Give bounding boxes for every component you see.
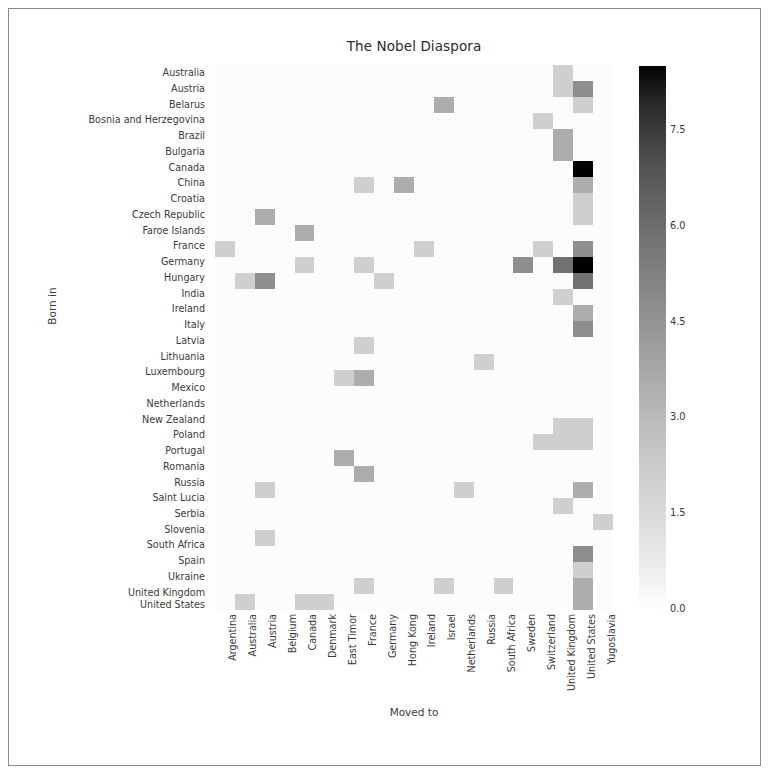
colorbar-tick: 3.0: [670, 412, 686, 422]
y-tick-label: Netherlands: [20, 396, 210, 412]
heatmap-cell: [494, 241, 514, 257]
heatmap-cell: [573, 177, 593, 193]
heatmap-cell: [295, 225, 315, 241]
heatmap-cell: [374, 273, 394, 289]
heatmap-cell: [354, 578, 374, 594]
heatmap-cell: [215, 562, 235, 578]
colorbar-tick-labels: 0.01.53.04.56.07.5: [670, 66, 720, 609]
heatmap-cell: [414, 482, 434, 498]
heatmap-cell: [235, 193, 255, 209]
heatmap-cell: [314, 289, 334, 305]
heatmap-cell: [374, 450, 394, 466]
heatmap-cell: [573, 129, 593, 145]
y-tick-label: Portugal: [20, 443, 210, 459]
heatmap-cell: [553, 466, 573, 482]
heatmap-cell: [454, 530, 474, 546]
heatmap-cell: [474, 594, 494, 610]
heatmap-cell: [374, 514, 394, 530]
heatmap-cell: [354, 337, 374, 353]
heatmap-cell: [593, 305, 613, 321]
heatmap-cell: [454, 386, 474, 402]
heatmap-cell: [573, 289, 593, 305]
heatmap-cell: [533, 418, 553, 434]
heatmap-cell: [314, 81, 334, 97]
heatmap-cell: [334, 546, 354, 562]
heatmap-cell: [255, 225, 275, 241]
y-tick-label: Poland: [20, 427, 210, 443]
heatmap-cell: [414, 530, 434, 546]
heatmap-cell: [414, 97, 434, 113]
heatmap-cell: [414, 466, 434, 482]
heatmap-cell: [553, 321, 573, 337]
heatmap-cell: [235, 241, 255, 257]
heatmap-cell: [354, 273, 374, 289]
page-title: The Nobel Diaspora: [215, 38, 613, 54]
heatmap-cell: [414, 578, 434, 594]
heatmap-cell: [414, 562, 434, 578]
heatmap-cell: [553, 530, 573, 546]
heatmap-cell: [314, 321, 334, 337]
heatmap-cell: [394, 129, 414, 145]
heatmap-cell: [334, 209, 354, 225]
heatmap-cell: [414, 145, 434, 161]
heatmap-cell: [275, 402, 295, 418]
heatmap-cell: [573, 193, 593, 209]
heatmap-cell: [275, 386, 295, 402]
heatmap-cell: [275, 177, 295, 193]
heatmap-cell: [454, 225, 474, 241]
heatmap-cell: [494, 370, 514, 386]
heatmap-cell: [215, 578, 235, 594]
heatmap-cell: [454, 81, 474, 97]
heatmap-cell: [474, 418, 494, 434]
heatmap-cell: [394, 370, 414, 386]
heatmap-cell: [314, 305, 334, 321]
heatmap-cell: [334, 65, 354, 81]
heatmap-cell: [434, 113, 454, 129]
heatmap-cell: [533, 241, 553, 257]
heatmap-cell: [533, 257, 553, 273]
heatmap-cell: [533, 193, 553, 209]
heatmap-cell: [334, 177, 354, 193]
heatmap-cell: [255, 466, 275, 482]
heatmap-cell: [314, 129, 334, 145]
heatmap-cell: [255, 129, 275, 145]
heatmap-cell: [354, 498, 374, 514]
heatmap-cell: [553, 594, 573, 610]
heatmap-cell: [334, 578, 354, 594]
heatmap-cell: [454, 321, 474, 337]
heatmap-cell: [334, 257, 354, 273]
heatmap-cell: [235, 145, 255, 161]
heatmap-cell: [494, 113, 514, 129]
heatmap-cell: [454, 354, 474, 370]
heatmap-cell: [215, 386, 235, 402]
heatmap-cell: [374, 129, 394, 145]
heatmap-cell: [215, 321, 235, 337]
heatmap-cell: [474, 65, 494, 81]
heatmap-cell: [295, 273, 315, 289]
heatmap-cell: [314, 466, 334, 482]
heatmap-cell: [494, 482, 514, 498]
heatmap-cell: [374, 370, 394, 386]
heatmap-cell: [494, 289, 514, 305]
heatmap-cell: [533, 305, 553, 321]
heatmap-cell: [533, 546, 553, 562]
heatmap-cell: [434, 129, 454, 145]
heatmap-cell: [494, 97, 514, 113]
heatmap-cell: [513, 418, 533, 434]
heatmap-cell: [513, 81, 533, 97]
x-tick-label: Australia: [235, 612, 255, 696]
heatmap-cell: [255, 257, 275, 273]
heatmap-cell: [593, 289, 613, 305]
heatmap-cell: [553, 177, 573, 193]
heatmap-cell: [593, 418, 613, 434]
heatmap-cell: [513, 289, 533, 305]
heatmap-cell: [434, 81, 454, 97]
heatmap-cell: [434, 370, 454, 386]
heatmap-cell: [314, 546, 334, 562]
heatmap-cell: [494, 161, 514, 177]
heatmap-cell: [215, 450, 235, 466]
heatmap-cell: [494, 466, 514, 482]
heatmap-cell: [275, 97, 295, 113]
heatmap-cell: [593, 466, 613, 482]
heatmap-cell: [354, 289, 374, 305]
